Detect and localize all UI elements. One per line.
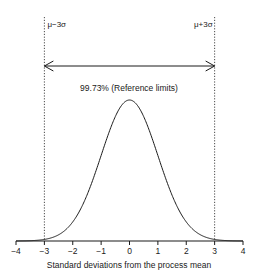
x-tick-label: −4: [11, 246, 21, 256]
x-axis: −4−3−2−101234: [11, 241, 245, 256]
reference-line-label: μ+3σ: [194, 20, 213, 29]
x-tick-label: 4: [241, 246, 246, 256]
reference-line-label: μ−3σ: [47, 20, 66, 29]
x-tick-label: −2: [68, 246, 78, 256]
reference-limits-arrow: [44, 61, 214, 71]
x-tick-label: −1: [96, 246, 106, 256]
x-tick-label: −3: [40, 246, 50, 256]
reference-lines: μ−3σμ+3σ: [44, 17, 214, 241]
x-axis-label: Standard deviations from the process mea…: [47, 260, 212, 270]
normal-distribution-chart: μ−3σμ+3σ 99.73% (Reference limits) −4−3−…: [0, 0, 257, 280]
x-tick-label: 0: [127, 246, 132, 256]
reference-limits-label: 99.73% (Reference limits): [80, 83, 178, 93]
x-tick-label: 1: [156, 246, 161, 256]
x-tick-label: 3: [212, 246, 217, 256]
x-tick-label: 2: [184, 246, 189, 256]
normal-curve: [16, 100, 243, 241]
